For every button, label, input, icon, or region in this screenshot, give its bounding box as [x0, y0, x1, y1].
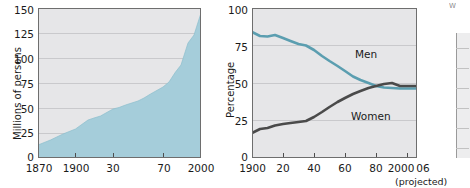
population-plot-area [38, 8, 201, 158]
y-tick-25: 25 [220, 116, 248, 127]
clipped-third-panel: W [440, 0, 469, 188]
y-tick-125: 125 [8, 29, 34, 40]
x-tick-20: 20 [271, 163, 295, 174]
y-tick-0: 0 [8, 152, 34, 163]
y-tick-100: 100 [220, 5, 248, 16]
x-tick-1870: 1870 [22, 163, 56, 174]
clipped-gridline [456, 128, 469, 129]
labor-force-participation-line-chart: Percentage 100 75 50 25 0 [215, 0, 435, 188]
x-tick-1900: 1900 [59, 163, 93, 174]
series-label-men: Men [355, 48, 377, 60]
y-tick-25: 25 [8, 128, 34, 139]
y-tick-0: 0 [220, 152, 248, 163]
x-tick-06: 06 [413, 163, 433, 174]
y-tick-75: 75 [220, 42, 248, 53]
x-tick-30: 30 [99, 163, 127, 174]
laborforce-plot-area [252, 8, 417, 158]
us-population-area-chart: Millions of persons 150 125 100 75 50 25… [0, 0, 215, 188]
clipped-gridline [456, 68, 469, 69]
clipped-gridline [456, 88, 469, 89]
y-tick-50: 50 [220, 79, 248, 90]
clipped-gridline [456, 108, 469, 109]
x-tick-2000: 2000 [184, 163, 218, 174]
clipped-gridline [456, 48, 469, 49]
y-tick-75: 75 [8, 79, 34, 90]
clipped-panel-fragment-label: W [449, 2, 456, 10]
x-tick-1900: 1900 [236, 163, 269, 174]
clipped-plot-area [456, 33, 470, 158]
x-tick-60: 60 [333, 163, 357, 174]
y-tick-100: 100 [8, 54, 34, 65]
x-tick-40: 40 [302, 163, 326, 174]
y-tick-150: 150 [8, 5, 34, 16]
clipped-gridline [456, 148, 469, 149]
series-label-women: Women [351, 110, 391, 122]
y-tick-50: 50 [8, 104, 34, 115]
x-tick-70: 70 [150, 163, 178, 174]
